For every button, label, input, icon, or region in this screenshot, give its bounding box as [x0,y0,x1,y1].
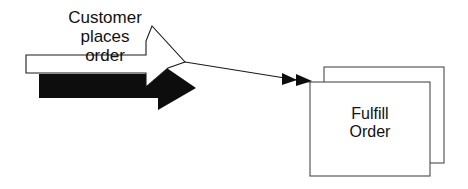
fulfill-order-label-line-1: Fulfill [351,105,388,122]
diagram-svg: Customer places order Fulfill Order [0,0,468,189]
connector-arrowheads [282,73,312,86]
fulfill-order-label-line-2: Order [350,123,392,140]
fulfill-order-label: Fulfill Order [350,105,392,140]
diagram-canvas: Customer places order Fulfill Order [0,0,468,189]
arrow-label-line-1: Customer [68,8,142,27]
arrow-label-line-3: order [85,46,125,65]
arrow-label-line-2: places [80,27,129,46]
arrowhead-first-icon [282,73,297,85]
